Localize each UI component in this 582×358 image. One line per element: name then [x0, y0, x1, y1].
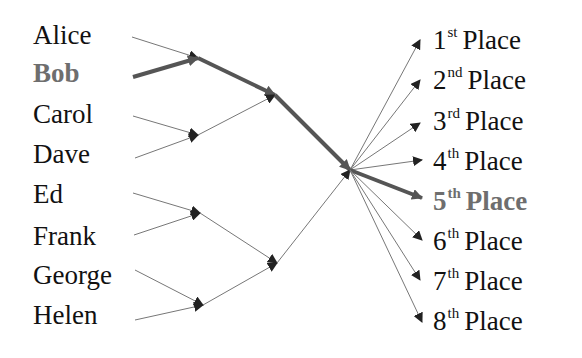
bracket-arrow — [133, 193, 200, 213]
place-number: 6 — [433, 226, 447, 256]
place-suffix: th — [448, 225, 460, 241]
place-label-6: 6thPlace — [433, 228, 523, 255]
edge-group — [132, 37, 422, 322]
place-word: Place — [464, 146, 522, 176]
winner-path-arrow — [133, 58, 198, 77]
bracket-arrow — [135, 270, 203, 305]
place-suffix: th — [448, 185, 461, 201]
winner-path-arrow — [198, 58, 275, 95]
place-word: Place — [464, 306, 522, 336]
place-suffix: rd — [448, 105, 461, 121]
player-label-frank: Frank — [33, 223, 96, 250]
player-label-george: George — [33, 262, 112, 289]
place-label-1: 1stPlace — [433, 27, 521, 54]
bracket-arrow — [350, 80, 420, 170]
player-name: Frank — [33, 221, 96, 251]
bracket-arrow — [350, 170, 422, 240]
place-word: Place — [465, 106, 523, 136]
place-word: Place — [463, 25, 521, 55]
player-label-bob: Bob — [33, 60, 80, 87]
bracket-arrow — [350, 170, 420, 280]
place-label-2: 2ndPlace — [433, 67, 526, 94]
player-label-helen: Helen — [33, 302, 97, 329]
place-label-8: 8thPlace — [433, 308, 523, 335]
player-name: Carol — [33, 99, 93, 129]
place-label-7: 7thPlace — [433, 268, 523, 295]
player-label-carol: Carol — [33, 101, 93, 128]
place-label-3: 3rdPlace — [433, 108, 523, 135]
place-word: Place — [468, 65, 526, 95]
place-number: 3 — [433, 106, 447, 136]
bracket-arrow — [350, 123, 420, 170]
player-name: Ed — [33, 179, 63, 209]
bracket-arrow — [198, 95, 275, 135]
bracket-arrow — [200, 213, 277, 263]
bracket-arrow — [203, 263, 277, 305]
bracket-arrow — [134, 213, 200, 235]
place-suffix: th — [448, 305, 460, 321]
place-number: 4 — [433, 146, 447, 176]
bracket-arrow — [133, 116, 198, 135]
player-name: Alice — [33, 20, 91, 50]
player-name: Dave — [33, 139, 90, 169]
place-suffix: th — [448, 145, 460, 161]
place-number: 2 — [433, 65, 447, 95]
place-label-4: 4thPlace — [433, 148, 523, 175]
place-number: 5 — [433, 186, 447, 216]
bracket-arrow — [132, 37, 198, 58]
player-name: Helen — [33, 300, 97, 330]
place-word: Place — [464, 266, 522, 296]
bracket-arrow — [350, 40, 420, 170]
place-word: Place — [466, 186, 527, 216]
place-label-5: 5thPlace — [433, 188, 527, 215]
place-word: Place — [464, 226, 522, 256]
place-suffix: th — [448, 265, 460, 281]
winner-path-arrow — [275, 95, 350, 170]
tournament-bracket-diagram: Alice Bob Carol Dave Ed Frank George Hel… — [0, 0, 582, 358]
player-name: George — [33, 260, 112, 290]
bracket-arrow — [135, 135, 198, 158]
place-number: 1 — [433, 25, 447, 55]
player-label-ed: Ed — [33, 181, 63, 208]
bracket-arrow — [135, 305, 203, 320]
bracket-arrow — [277, 170, 350, 263]
place-suffix: nd — [448, 64, 463, 80]
place-number: 8 — [433, 306, 447, 336]
place-suffix: st — [448, 24, 458, 40]
place-number: 7 — [433, 266, 447, 296]
player-label-alice: Alice — [33, 22, 91, 49]
player-name: Bob — [33, 58, 80, 88]
player-label-dave: Dave — [33, 141, 90, 168]
bracket-arrow — [350, 160, 422, 170]
